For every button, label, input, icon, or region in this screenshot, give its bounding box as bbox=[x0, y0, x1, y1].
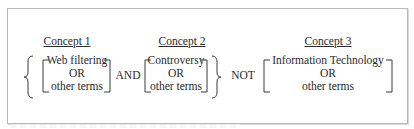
concept-1-connector: OR bbox=[69, 67, 85, 79]
concept-1-other: other terms bbox=[51, 80, 103, 92]
concept-1-heading: Concept 1 bbox=[44, 35, 91, 47]
operator-not: NOT bbox=[231, 69, 255, 81]
concept-3-term: Information Technology bbox=[272, 54, 384, 66]
concept-3-right-bracket bbox=[386, 60, 392, 92]
concept-1-term: Web filtering bbox=[47, 54, 108, 66]
operator-and: AND bbox=[116, 69, 141, 81]
concept-3-other: other terms bbox=[302, 80, 354, 92]
concept-2-other: other terms bbox=[150, 80, 202, 92]
concept-2-connector: OR bbox=[168, 67, 184, 79]
right-curly-brace bbox=[212, 56, 221, 98]
concept-2-heading: Concept 2 bbox=[159, 35, 206, 47]
concept-2-term: Controversy bbox=[148, 54, 205, 66]
concept-3-heading: Concept 3 bbox=[305, 35, 352, 47]
concept-3-left-bracket bbox=[264, 60, 270, 92]
caption-bleed-through bbox=[10, 124, 240, 128]
concept-3-connector: OR bbox=[320, 67, 336, 79]
left-curly-brace bbox=[24, 56, 33, 98]
